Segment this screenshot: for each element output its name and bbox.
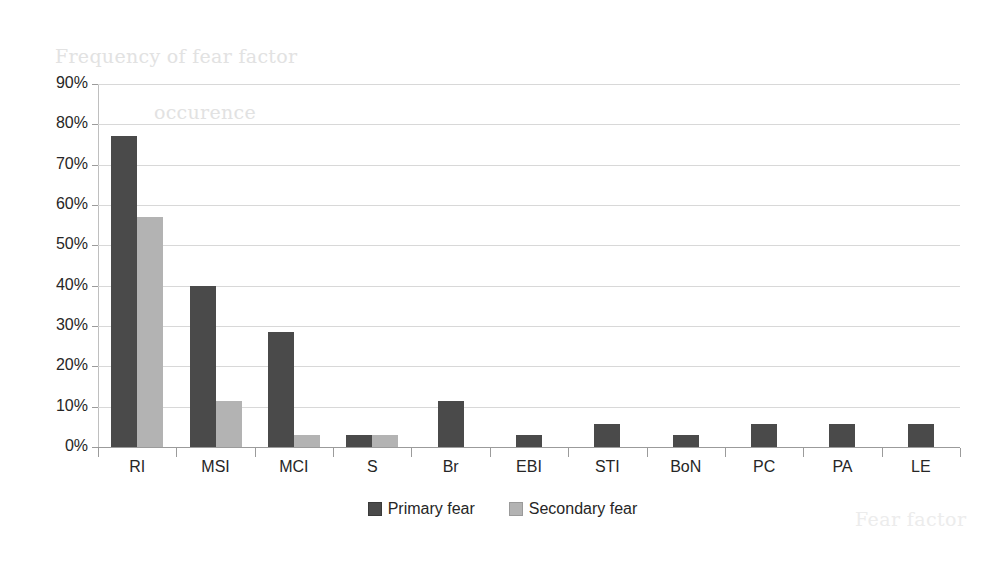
bar-primary-fear (829, 424, 855, 447)
x-axis-tick-label: EBI (484, 458, 574, 476)
bar-group (176, 84, 254, 447)
y-axis-tick-label: 10% (33, 397, 88, 415)
plot-area (98, 84, 960, 448)
bar-primary-fear (111, 136, 137, 447)
legend-item: Secondary fear (509, 500, 638, 518)
bar-chart: Frequency of fear factor occurence Fear … (0, 0, 1005, 562)
bar-primary-fear (438, 401, 464, 447)
bar-group (98, 84, 176, 447)
bar-primary-fear (751, 424, 777, 447)
bar-secondary-fear (294, 435, 320, 447)
x-axis-tick (960, 448, 961, 457)
legend-label: Primary fear (388, 500, 475, 518)
legend-swatch-icon (509, 502, 523, 516)
y-axis-tick-label: 70% (33, 155, 88, 173)
bar-secondary-fear (372, 435, 398, 447)
x-axis-tick-label: Br (406, 458, 496, 476)
y-axis-tick-label: 40% (33, 276, 88, 294)
chart-legend: Primary fearSecondary fear (0, 500, 1005, 518)
chart-title-line1: Frequency of fear factor (55, 42, 355, 70)
bar-group (411, 84, 489, 447)
y-axis-tick-label: 0% (33, 437, 88, 455)
bar-primary-fear (190, 286, 216, 447)
x-axis-tick (98, 448, 99, 457)
bar-primary-fear (516, 435, 542, 447)
bar-group (725, 84, 803, 447)
bar-primary-fear (908, 424, 934, 447)
x-axis-tick (647, 448, 648, 457)
bar-primary-fear (268, 332, 294, 447)
x-axis-tick-label: RI (92, 458, 182, 476)
x-axis-tick-label: PA (797, 458, 887, 476)
bar-group (803, 84, 881, 447)
bar-group (568, 84, 646, 447)
bar-secondary-fear (216, 401, 242, 447)
bar-primary-fear (673, 435, 699, 447)
bar-primary-fear (594, 424, 620, 447)
bar-primary-fear (346, 435, 372, 447)
legend-label: Secondary fear (529, 500, 638, 518)
y-axis-tick-label: 50% (33, 235, 88, 253)
legend-item: Primary fear (368, 500, 475, 518)
x-axis-tick (490, 448, 491, 457)
bar-group (490, 84, 568, 447)
x-axis-tick (333, 448, 334, 457)
x-axis-tick-label: LE (876, 458, 966, 476)
x-axis-tick-label: BoN (641, 458, 731, 476)
bar-group (882, 84, 960, 447)
x-axis-tick (176, 448, 177, 457)
x-axis-tick-label: STI (562, 458, 652, 476)
y-axis-tick-label: 60% (33, 195, 88, 213)
x-axis-tick (725, 448, 726, 457)
x-axis-line (98, 447, 960, 448)
x-axis-tick (803, 448, 804, 457)
x-axis-tick (568, 448, 569, 457)
x-axis-tick-label: MCI (249, 458, 339, 476)
bar-group (255, 84, 333, 447)
x-axis-tick (411, 448, 412, 457)
bar-group (333, 84, 411, 447)
legend-swatch-icon (368, 502, 382, 516)
y-axis-tick-label: 20% (33, 356, 88, 374)
bar-group (647, 84, 725, 447)
bar-secondary-fear (137, 217, 163, 447)
x-axis-tick-label: MSI (171, 458, 261, 476)
x-axis-tick-label: PC (719, 458, 809, 476)
x-axis-tick-label: S (327, 458, 417, 476)
x-axis-tick (882, 448, 883, 457)
y-axis-tick-label: 30% (33, 316, 88, 334)
x-axis-tick (255, 448, 256, 457)
